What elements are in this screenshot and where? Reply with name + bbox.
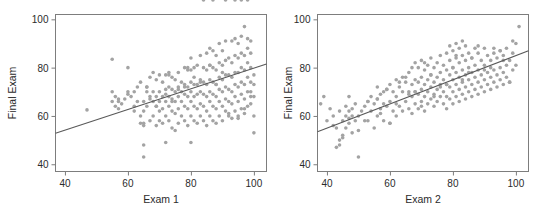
scatter-point	[423, 68, 427, 72]
scatter-point	[199, 54, 203, 58]
scatter-point	[442, 90, 446, 94]
scatter-point	[205, 68, 209, 72]
scatter-point	[464, 44, 468, 48]
scatter-point	[145, 104, 149, 108]
scatter-point	[170, 100, 174, 104]
scatter-point	[445, 68, 449, 72]
scatter-point	[161, 107, 165, 111]
scatter-point	[379, 112, 383, 116]
scatter-point	[439, 95, 443, 99]
x-tick-label: 60	[384, 178, 396, 189]
scatter-point	[432, 95, 436, 99]
scatter-point	[236, 100, 240, 104]
scatter-point	[505, 76, 509, 80]
scatter-point	[249, 102, 253, 106]
scatter-point	[495, 56, 499, 60]
scatter-point	[167, 85, 171, 89]
y-tick-label: 80	[299, 63, 311, 74]
scatter-point	[208, 47, 212, 51]
scatter-point	[236, 42, 240, 46]
x-axis-ticks-1: 406080100	[59, 172, 262, 189]
scatter-point	[413, 61, 417, 65]
scatter-point	[464, 97, 468, 101]
scatter-point	[445, 107, 449, 111]
scatter-point	[461, 92, 465, 96]
scatter-point	[246, 104, 250, 108]
scatter-point	[502, 71, 506, 75]
scatter-panel-exam1: 406080100 406080100 Exam 1 Final Exam	[0, 0, 276, 216]
scatter-point	[246, 47, 250, 51]
scatter-point	[498, 66, 502, 70]
scatter-point	[423, 95, 427, 99]
scatter-point	[461, 68, 465, 72]
scatter-point	[132, 109, 136, 113]
x-axis-title-2: Exam 2	[405, 193, 441, 205]
scatter-point	[483, 78, 487, 82]
scatter-point	[233, 37, 237, 41]
scatter-point	[123, 97, 127, 101]
scatter-point	[189, 100, 193, 104]
scatter-point	[416, 107, 420, 111]
scatter-point	[208, 63, 212, 67]
scatter-point	[224, 97, 228, 101]
scatter-point	[199, 80, 203, 84]
scatter-point	[442, 102, 446, 106]
scatter-point	[252, 131, 256, 135]
scatter-point	[486, 71, 490, 75]
scatter-point	[360, 109, 364, 113]
y-tick-label: 100	[32, 14, 49, 25]
scatter-point	[464, 85, 468, 89]
scatter-point	[214, 54, 218, 58]
scatter-point	[249, 95, 253, 99]
scatter-point	[376, 114, 380, 118]
scatter-point	[379, 92, 383, 96]
scatter-point	[435, 100, 439, 104]
scatter-point	[173, 100, 177, 104]
data-points-2	[319, 25, 521, 159]
scatter-point	[240, 66, 244, 70]
scatter-point	[483, 90, 487, 94]
y-axis-ticks-2: 406080100	[294, 14, 318, 170]
scatter-point	[180, 80, 184, 84]
scatter-point	[192, 104, 196, 108]
scatter-point	[435, 61, 439, 65]
scatter-point	[148, 119, 152, 123]
scatter-point	[177, 107, 181, 111]
y-axis-title-1: Final Exam	[6, 66, 18, 119]
scatter-point	[353, 102, 357, 106]
scatter-point	[214, 121, 218, 125]
x-tick-label: 80	[185, 178, 197, 189]
scatter-point	[322, 95, 326, 99]
scatter-point	[164, 88, 168, 92]
scatter-point	[473, 47, 477, 51]
scatter-point	[335, 146, 339, 150]
scatter-point	[366, 119, 370, 123]
scatter-plot-exam1-svg: 406080100 406080100 Exam 1 Final Exam	[0, 0, 276, 216]
scatter-point	[221, 119, 225, 123]
scatter-point	[227, 112, 231, 116]
scatter-point	[502, 83, 506, 87]
scatter-panel-exam2: 406080100 406080100 Exam 2 Final Exam	[276, 0, 552, 216]
scatter-point	[404, 100, 408, 104]
scatter-point	[426, 78, 430, 82]
scatter-point	[344, 126, 348, 130]
scatter-point	[394, 102, 398, 106]
figure-container: 406080100 406080100 Exam 1 Final Exam 40…	[0, 0, 552, 216]
scatter-point	[243, 83, 247, 87]
scatter-point	[376, 97, 380, 101]
scatter-point	[189, 56, 193, 60]
scatter-point	[511, 51, 515, 55]
scatter-point	[511, 68, 515, 72]
scatter-point	[388, 100, 392, 104]
scatter-point	[398, 85, 402, 89]
scatter-point	[502, 54, 506, 58]
scatter-point	[110, 100, 114, 104]
scatter-point	[154, 104, 158, 108]
scatter-point	[145, 90, 149, 94]
scatter-point	[132, 90, 136, 94]
scatter-point	[173, 129, 177, 133]
scatter-point	[410, 66, 414, 70]
scatter-point	[363, 104, 367, 108]
scatter-point	[495, 73, 499, 77]
scatter-point	[470, 56, 474, 60]
